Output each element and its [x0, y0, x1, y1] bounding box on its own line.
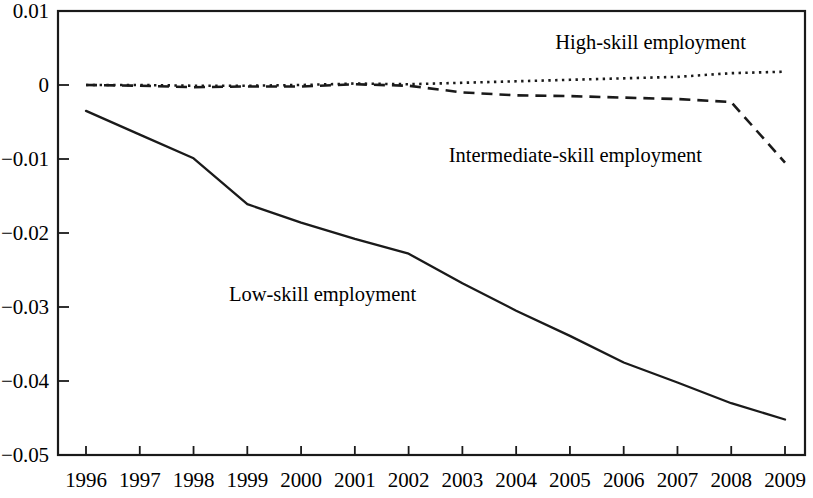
- y-axis-ticks: [58, 11, 69, 455]
- series-annotation-label: High-skill employment: [555, 31, 746, 54]
- series-lines: [86, 72, 785, 420]
- x-axis-tick-label: 1997: [119, 468, 161, 493]
- x-axis-tick-label: 2005: [549, 468, 591, 493]
- y-axis-tick-label: 0.01: [13, 0, 49, 24]
- y-axis-tick-label: −0.05: [1, 443, 49, 468]
- y-axis-tick-label: −0.04: [1, 369, 49, 394]
- series-annotation-label: Low-skill employment: [229, 283, 416, 306]
- x-axis-tick-label: 2001: [334, 468, 376, 493]
- x-axis-tick-label: 2000: [280, 468, 322, 493]
- x-axis-ticks: [86, 446, 785, 455]
- x-axis-tick-label: 2003: [442, 468, 484, 493]
- y-axis-tick-label: 0: [39, 73, 49, 98]
- series-annotation-label: Intermediate-skill employment: [449, 144, 702, 167]
- series-line-high-skill-employment: [86, 72, 785, 86]
- x-axis-tick-label: 1998: [173, 468, 215, 493]
- x-axis-tick-label: 2004: [495, 468, 537, 493]
- chart-figure: 0.010−0.01−0.02−0.03−0.04−0.05 199619971…: [0, 0, 813, 498]
- y-axis-tick-label: −0.03: [1, 295, 49, 320]
- x-axis-tick-label: 2009: [764, 468, 806, 493]
- x-axis-tick-label: 2006: [603, 468, 645, 493]
- x-axis-tick-label: 2008: [710, 468, 752, 493]
- y-axis-tick-label: −0.01: [1, 147, 49, 172]
- x-axis-tick-label: 2007: [657, 468, 699, 493]
- x-axis-tick-label: 1996: [65, 468, 107, 493]
- x-axis-tick-label: 2002: [388, 468, 430, 493]
- x-axis-tick-label: 1999: [226, 468, 268, 493]
- line-chart-plot: [0, 0, 813, 498]
- y-axis-tick-label: −0.02: [1, 221, 49, 246]
